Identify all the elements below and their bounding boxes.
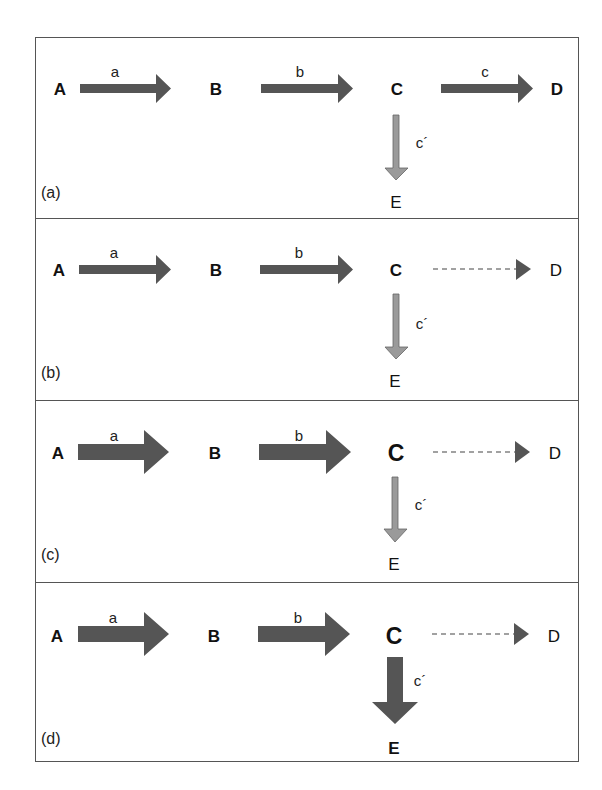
panel-b: A a B b C D c´ E (b) (36, 218, 578, 400)
panel-a: A a B b C c D c´ E (a) (36, 38, 578, 218)
node-d: D (549, 445, 561, 462)
edge-label-b: b (295, 428, 303, 443)
node-e: E (390, 194, 401, 211)
node-e: E (388, 740, 399, 757)
arrow-b-icon (260, 255, 353, 284)
edge-label-c-prime: c´ (414, 673, 427, 688)
edge-label-a: a (110, 245, 118, 260)
arrow-b-icon (261, 74, 353, 103)
node-d: D (548, 628, 560, 645)
arrow-b-icon (259, 430, 351, 474)
node-a: A (51, 628, 63, 645)
edge-label-a: a (109, 610, 117, 625)
edge-label-c: c (481, 64, 489, 79)
panel-label: (d) (41, 731, 61, 747)
node-b: B (209, 445, 221, 462)
node-b: B (210, 262, 222, 279)
edge-label-c-prime: c´ (416, 316, 429, 331)
node-c: C (388, 442, 405, 465)
arrow-a-icon (78, 430, 169, 474)
arrow-c-prime-icon (385, 115, 408, 180)
node-e: E (389, 373, 400, 390)
arrow-c-head-icon (514, 623, 529, 645)
node-a: A (52, 445, 64, 462)
node-b: B (208, 628, 220, 645)
edge-label-c-prime: c´ (416, 135, 429, 150)
arrow-a-icon (80, 74, 171, 103)
diagram-frame: A a B b C c D c´ E (a) A a B b C D c´ E … (35, 37, 579, 762)
arrow-b-icon (258, 612, 350, 656)
edge-label-b: b (294, 610, 302, 625)
arrow-c-head-icon (515, 441, 530, 463)
panel-label: (b) (41, 365, 61, 381)
arrow-c-head-icon (516, 259, 531, 280)
edge-label-c-prime: c´ (415, 497, 428, 512)
node-c: C (391, 81, 403, 98)
edge-label-b: b (295, 245, 303, 260)
arrow-a-icon (79, 255, 171, 284)
panel-c: A a B b C D c´ E (c) (36, 400, 578, 582)
node-c: C (390, 262, 402, 279)
arrow-c-prime-icon (385, 294, 408, 359)
panel-d: A a B b C D c´ E (d) (36, 582, 578, 763)
panel-label: (c) (41, 547, 60, 563)
arrow-a-icon (78, 612, 169, 656)
node-e: E (388, 556, 399, 573)
arrow-c-prime-icon (372, 657, 418, 724)
panel-label: (a) (41, 185, 61, 201)
arrow-c-prime-icon (384, 477, 407, 542)
panel-d-arrows (36, 583, 580, 764)
node-a: A (53, 262, 65, 279)
edge-label-b: b (296, 64, 304, 79)
node-a: A (54, 81, 66, 98)
node-c: C (386, 625, 403, 648)
node-b: B (210, 81, 222, 98)
edge-label-a: a (110, 428, 118, 443)
node-d: D (550, 262, 562, 279)
edge-label-a: a (111, 64, 119, 79)
node-d: D (551, 81, 563, 98)
